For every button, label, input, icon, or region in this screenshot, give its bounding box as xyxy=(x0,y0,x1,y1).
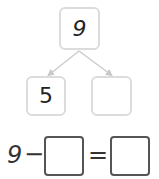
equation-blank-2[interactable] xyxy=(110,136,150,176)
connector-left xyxy=(50,51,79,74)
bond-part-right-box[interactable] xyxy=(91,76,132,116)
bond-whole-box: 9 xyxy=(59,7,100,50)
equation-equals: = xyxy=(88,143,108,167)
bond-part-left-value: 5 xyxy=(39,85,53,107)
connector-right xyxy=(79,51,110,74)
equation-minus: − xyxy=(24,142,44,166)
equation-blank-1[interactable] xyxy=(44,136,84,176)
equation-minuend: 9 xyxy=(7,143,22,167)
bond-part-left-box: 5 xyxy=(26,76,66,116)
bond-whole-value: 9 xyxy=(73,18,87,40)
